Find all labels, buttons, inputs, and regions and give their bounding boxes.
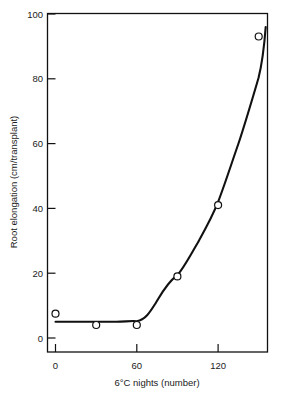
x-tick-label-120: 120 [210, 360, 226, 371]
data-point-4 [215, 202, 222, 209]
data-point-2 [133, 322, 140, 329]
y-tick-label-80: 80 [32, 73, 43, 84]
data-point-0 [52, 310, 59, 317]
y-tick-label-100: 100 [27, 9, 43, 20]
y-tick-label-60: 60 [32, 138, 43, 149]
y-tick-labels: 100 80 60 40 20 0 [27, 9, 43, 344]
x-axis-ticks [56, 344, 219, 352]
y-tick-label-0: 0 [38, 333, 43, 344]
figure-root-elongation-vs-cold-nights: 100 80 60 40 20 0 0 60 120 6°C nights (n… [0, 0, 283, 397]
chart-canvas: 100 80 60 40 20 0 0 60 120 6°C nights (n… [0, 0, 283, 397]
y-tick-label-40: 40 [32, 203, 43, 214]
data-point-1 [93, 322, 100, 329]
fitted-curve [56, 27, 266, 322]
data-point-3 [174, 273, 181, 280]
x-tick-label-0: 0 [53, 360, 58, 371]
y-tick-label-20: 20 [32, 268, 43, 279]
x-tick-labels: 0 60 120 [53, 360, 226, 371]
caption-ghost-strip [0, 386, 283, 397]
y-axis-ticks [48, 14, 56, 338]
x-tick-label-60: 60 [132, 360, 143, 371]
response-curve-path [56, 27, 266, 322]
data-point-5 [255, 33, 262, 40]
data-point-markers [52, 33, 262, 329]
y-axis-title: Root elongation (cm/transplant) [8, 116, 19, 249]
